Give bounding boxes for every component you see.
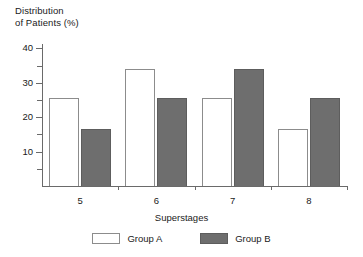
bar-group-a-stage-7 (202, 98, 232, 186)
y-axis-tick-major: 40 (36, 48, 42, 49)
y-axis-title: Distribution of Patients (%) (15, 5, 79, 29)
bar-group-b-stage-6 (157, 98, 187, 186)
y-axis-tick-major: 10 (36, 152, 42, 153)
y-axis-tick-minor (37, 169, 42, 170)
bar-group-a-stage-6 (125, 69, 155, 186)
y-axis-tick-major: 30 (36, 83, 42, 84)
y-axis-tick-label: 10 (22, 145, 33, 158)
legend-swatch-icon (200, 233, 228, 244)
bar-chart-figure: Distribution of Patients (%) 10203040 56… (0, 0, 363, 257)
x-axis-title: Superstages (0, 211, 363, 224)
x-axis-separator-tick (118, 186, 119, 190)
x-axis-tick-label: 8 (271, 194, 347, 207)
legend-swatch-icon (92, 233, 120, 244)
legend-entry-group-a[interactable]: Group A (92, 232, 162, 245)
bar-group-b-stage-7 (234, 69, 264, 186)
y-axis-tick-label: 30 (22, 76, 33, 89)
y-axis-tick-minor (37, 100, 42, 101)
x-axis-tick-label: 6 (118, 194, 194, 207)
y-axis-tick-major: 20 (36, 117, 42, 118)
x-axis-tick-label: 5 (42, 194, 118, 207)
bar-group-b-stage-5 (81, 129, 111, 186)
x-axis-separator-tick (195, 186, 196, 190)
legend-entry-group-b[interactable]: Group B (200, 232, 270, 245)
y-axis-tick-label: 20 (22, 110, 33, 123)
bar-group-b-stage-8 (310, 98, 340, 186)
legend-label: Group A (127, 232, 162, 245)
y-axis-line (42, 44, 43, 187)
x-axis-separator-tick (347, 186, 348, 190)
plot-area: 10203040 5678 (42, 44, 347, 187)
y-axis-tick-label: 40 (22, 41, 33, 54)
bar-group-a-stage-8 (278, 129, 308, 186)
legend-label: Group B (235, 232, 270, 245)
x-axis-tick-label: 7 (195, 194, 271, 207)
y-axis-tick-minor (37, 66, 42, 67)
x-axis-separator-tick (271, 186, 272, 190)
y-axis-tick-minor (37, 134, 42, 135)
bar-group-a-stage-5 (49, 98, 79, 186)
chart-legend: Group AGroup B (0, 232, 363, 245)
